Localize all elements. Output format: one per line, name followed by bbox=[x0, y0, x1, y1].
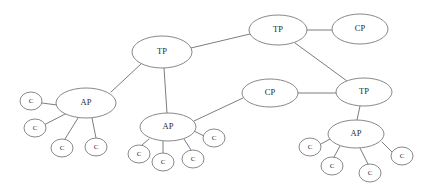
node-shape-tp2 bbox=[249, 15, 307, 45]
network-graph-canvas: TPTPCPTPCPAPAPAPCCCCCCCCCCCC bbox=[0, 0, 434, 188]
node-shape-c6 bbox=[152, 153, 174, 171]
edge-ap2-cp2 bbox=[194, 98, 243, 121]
node-c2[interactable]: C bbox=[24, 119, 46, 137]
node-tp2[interactable]: TP bbox=[249, 15, 307, 45]
node-layer: TPTPCPTPCPAPAPAPCCCCCCCCCCCC bbox=[20, 14, 413, 182]
node-shape-c4 bbox=[85, 138, 107, 156]
node-shape-c12 bbox=[391, 147, 413, 165]
node-c7[interactable]: C bbox=[182, 150, 204, 168]
edge-ap1-c4 bbox=[92, 118, 96, 138]
node-ap3[interactable]: AP bbox=[328, 120, 384, 148]
edge-ap2-c8 bbox=[194, 131, 204, 136]
node-tp1[interactable]: TP bbox=[132, 36, 192, 68]
node-shape-ap3 bbox=[328, 120, 384, 148]
node-shape-c9 bbox=[299, 138, 321, 156]
node-shape-tp1 bbox=[132, 36, 192, 68]
node-shape-c10 bbox=[321, 157, 343, 175]
node-c9[interactable]: C bbox=[299, 138, 321, 156]
node-c8[interactable]: C bbox=[203, 129, 225, 147]
node-shape-tp3 bbox=[336, 78, 392, 106]
node-shape-c2 bbox=[24, 119, 46, 137]
node-shape-ap2 bbox=[140, 113, 196, 141]
edge-ap1-c1 bbox=[42, 103, 57, 105]
node-shape-cp1 bbox=[332, 14, 388, 44]
edge-ap3-c9 bbox=[321, 139, 330, 144]
edge-tp1-tp2 bbox=[191, 34, 250, 48]
node-ap1[interactable]: AP bbox=[56, 88, 116, 118]
node-c1[interactable]: C bbox=[20, 92, 42, 110]
node-shape-cp2 bbox=[242, 79, 298, 107]
node-c11[interactable]: C bbox=[359, 164, 381, 182]
node-tp3[interactable]: TP bbox=[336, 78, 392, 106]
node-c5[interactable]: C bbox=[128, 145, 150, 163]
node-shape-c8 bbox=[203, 129, 225, 147]
edge-tp1-ap2 bbox=[164, 68, 167, 113]
network-topology-diagram: TPTPCPTPCPAPAPAPCCCCCCCCCCCC bbox=[0, 0, 434, 188]
node-shape-c11 bbox=[359, 164, 381, 182]
edge-ap1-c2 bbox=[44, 113, 67, 125]
node-shape-ap1 bbox=[56, 88, 116, 118]
node-c10[interactable]: C bbox=[321, 157, 343, 175]
edge-ap3-c10 bbox=[334, 146, 340, 157]
edge-tp3-ap3 bbox=[357, 106, 360, 120]
node-shape-c3 bbox=[51, 139, 73, 157]
node-cp2[interactable]: CP bbox=[242, 79, 298, 107]
edge-tp2-tp3 bbox=[295, 43, 347, 81]
node-shape-c1 bbox=[20, 92, 42, 110]
edge-tp1-ap1 bbox=[111, 64, 141, 92]
edge-ap3-c11 bbox=[360, 148, 368, 164]
node-cp1[interactable]: CP bbox=[332, 14, 388, 44]
node-shape-c7 bbox=[182, 150, 204, 168]
edge-ap1-c3 bbox=[65, 118, 78, 139]
edge-ap2-c7 bbox=[184, 139, 191, 150]
edge-ap2-c5 bbox=[142, 139, 149, 145]
node-shape-c5 bbox=[128, 145, 150, 163]
edge-ap3-c12 bbox=[382, 142, 392, 152]
node-c3[interactable]: C bbox=[51, 139, 73, 157]
node-c4[interactable]: C bbox=[85, 138, 107, 156]
node-c12[interactable]: C bbox=[391, 147, 413, 165]
node-c6[interactable]: C bbox=[152, 153, 174, 171]
node-ap2[interactable]: AP bbox=[140, 113, 196, 141]
